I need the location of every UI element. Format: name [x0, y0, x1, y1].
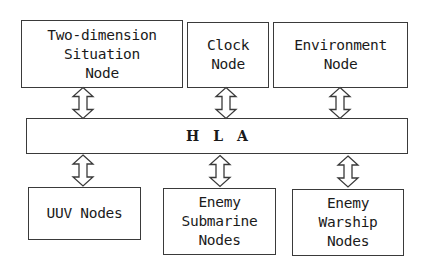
- enemy-submarine-nodes: Enemy Submarine Nodes: [163, 188, 276, 255]
- node-label: Two-dimension Situation Node: [47, 26, 157, 83]
- bidirectional-arrow-icon: [210, 156, 230, 187]
- uuv-nodes: UUV Nodes: [28, 187, 141, 240]
- hla-bus: HLA: [26, 118, 408, 154]
- node-label: Environment Node: [294, 36, 387, 74]
- bidirectional-arrow-icon: [338, 156, 358, 187]
- enemy-warship-nodes: Enemy Warship Nodes: [292, 189, 404, 256]
- two-dimension-situation-node: Two-dimension Situation Node: [21, 20, 183, 88]
- node-label: Enemy Warship Nodes: [318, 194, 377, 251]
- node-label: Clock Node: [207, 36, 249, 74]
- bidirectional-arrow-icon: [330, 88, 350, 119]
- environment-node: Environment Node: [273, 22, 408, 88]
- bus-label: HLA: [172, 128, 262, 144]
- node-label: Enemy Submarine Nodes: [182, 193, 258, 250]
- node-label: UUV Nodes: [47, 204, 123, 223]
- clock-node: Clock Node: [187, 22, 269, 88]
- bidirectional-arrow-icon: [73, 155, 93, 186]
- bidirectional-arrow-icon: [73, 88, 93, 119]
- bidirectional-arrow-icon: [216, 88, 236, 119]
